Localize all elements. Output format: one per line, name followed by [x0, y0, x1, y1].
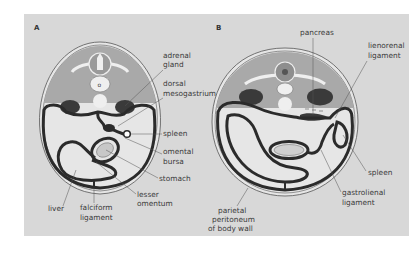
label-pancreas: pancreas [300, 28, 334, 37]
label-spleen-b: spleen [368, 168, 393, 177]
spleen-a [124, 131, 131, 138]
panel-a-letter: A [34, 24, 40, 32]
label-adrenal-gland: adrenal [163, 51, 191, 60]
label-lienorenal-ligament: lienorenal [368, 41, 405, 50]
label-parietal-peritoneum-2: peritoneum [212, 215, 255, 224]
spleen-b [334, 122, 347, 147]
label-lienorenal-ligament-2: ligament [368, 51, 401, 60]
label-spleen-a: spleen [163, 129, 188, 138]
stomach-body-a [103, 124, 115, 132]
label-falciform-ligament: falciform [80, 203, 113, 212]
svg-text:o: o [98, 81, 102, 88]
label-omental-bursa-2: bursa [163, 157, 184, 166]
label-lesser-omentum-2: omentum [137, 199, 173, 208]
panel-b-letter: B [216, 24, 221, 32]
label-parietal-peritoneum: parietal [218, 206, 246, 215]
label-lesser-omentum: lesser [137, 190, 160, 199]
label-gastrolienal-ligament-2: ligament [342, 198, 375, 207]
kidney-right-b [307, 89, 333, 106]
label-adrenal-gland-2: gland [163, 60, 184, 69]
peritoneum-diagram: A o adrenal gland [0, 0, 416, 253]
label-dorsal-mesogastrium: dorsal [163, 79, 186, 88]
label-dorsal-mesogastrium-2: mesogastrium [163, 89, 216, 98]
label-gastrolienal-ligament: gastrolienal [342, 188, 385, 197]
label-omental-bursa: omental [163, 147, 193, 156]
label-falciform-ligament-2: ligament [80, 213, 113, 222]
label-stomach: stomach [159, 174, 191, 183]
label-parietal-peritoneum-3: of body wall [208, 224, 253, 233]
label-liver: liver [48, 204, 65, 213]
panel-b: B pancreas lienorenal liga [208, 24, 405, 233]
panel-a: A o adrenal gland [34, 24, 216, 222]
